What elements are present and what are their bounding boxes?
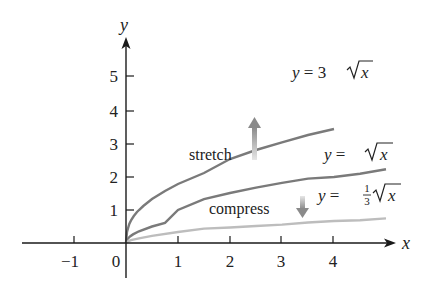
- svg-text:x: x: [379, 145, 388, 164]
- y-tick-label: 5: [110, 67, 119, 86]
- stretch-arrow-icon: [248, 117, 261, 160]
- radical-icon: [365, 143, 393, 160]
- radical-icon: [347, 61, 373, 78]
- compress-label: compress: [209, 200, 269, 218]
- y-tick-label: 1: [110, 201, 119, 220]
- label-3-sqrt-x: y = 3 x: [290, 61, 373, 82]
- y-axis-label: y: [118, 15, 128, 35]
- svg-text:3: 3: [364, 195, 370, 207]
- label-sqrt-x: y = x: [322, 143, 393, 164]
- x-tick-label: 2: [226, 252, 235, 271]
- svg-text:x: x: [360, 63, 369, 82]
- x-tick-label: 4: [329, 252, 338, 271]
- x-tick-label: 0: [112, 252, 121, 271]
- x-axis-label: x: [401, 233, 410, 253]
- svg-text:y =: y =: [316, 186, 339, 205]
- x-ticks: [74, 236, 333, 243]
- y-tick-label: 4: [110, 102, 119, 121]
- label-third-sqrt-x: y = 1 3 x: [316, 182, 401, 207]
- x-tick-label: −1: [61, 252, 79, 271]
- x-tick-label: 3: [277, 252, 286, 271]
- svg-text:y =: y =: [322, 145, 345, 164]
- radical-icon: [373, 184, 401, 201]
- svg-text:1: 1: [364, 182, 370, 194]
- chart: −1 0 1 2 3 4 1 2 3 4 5 x y y = 3 x y = x…: [0, 0, 430, 289]
- svg-text:y = 3: y = 3: [290, 63, 326, 82]
- y-tick-label: 3: [110, 135, 119, 154]
- x-tick-label: 1: [174, 252, 183, 271]
- compress-arrow-icon: [296, 196, 309, 218]
- y-ticks: [126, 76, 134, 210]
- svg-text:x: x: [387, 186, 396, 205]
- stretch-label: stretch: [189, 146, 232, 163]
- y-tick-label: 2: [110, 168, 119, 187]
